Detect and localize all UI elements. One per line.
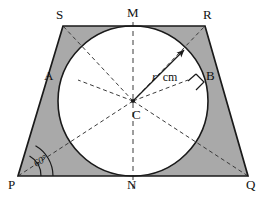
- tangent-label-n: N: [127, 178, 136, 191]
- tangent-label-m: M: [127, 6, 139, 19]
- vertex-label-q: Q: [246, 178, 255, 191]
- geometry-diagram-svg: [0, 0, 268, 199]
- centre-point-dot: [131, 99, 135, 103]
- radius-symbol: r: [152, 70, 157, 84]
- vertex-label-s: S: [56, 8, 63, 21]
- radius-unit: cm: [163, 70, 178, 84]
- vertex-label-r: R: [203, 8, 212, 21]
- vertex-label-p: P: [8, 178, 15, 191]
- tangent-point-dots: [131, 99, 135, 103]
- centre-label-c: C: [132, 108, 141, 121]
- tangent-label-a: A: [44, 69, 53, 82]
- tangent-label-b: B: [206, 69, 215, 82]
- radius-measure-label: rcm: [152, 71, 177, 83]
- geometry-figure: S M R A B rcm C 60° P N Q: [0, 0, 268, 199]
